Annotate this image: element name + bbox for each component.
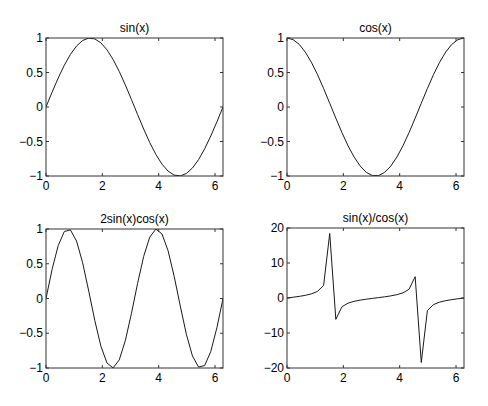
y-tick-label: 0.5	[267, 66, 284, 80]
x-tick-label: 2	[340, 179, 347, 193]
y-tick-label: 0	[36, 292, 43, 306]
x-tick-label: 0	[284, 371, 291, 385]
y-tick-label: −1	[29, 361, 43, 375]
subplot-title: sin(x)	[120, 21, 149, 35]
y-tick-label: 20	[271, 221, 285, 235]
x-tick-label: 6	[453, 179, 460, 193]
y-tick-label: −10	[264, 326, 285, 340]
x-tick-label: 0	[43, 179, 50, 193]
data-line	[46, 38, 223, 176]
subplot-title: sin(x)/cos(x)	[343, 211, 408, 225]
y-tick-label: −0.5	[19, 326, 43, 340]
x-tick-label: 6	[453, 371, 460, 385]
x-tick-label: 6	[212, 371, 219, 385]
x-tick-label: 2	[340, 371, 347, 385]
y-tick-label: −0.5	[260, 135, 284, 149]
data-line	[46, 229, 223, 368]
x-tick-label: 2	[99, 179, 106, 193]
x-tick-label: 4	[396, 179, 403, 193]
subplot-sin2: 0246−1−0.500.512sin(x)cos(x)	[19, 212, 223, 385]
y-tick-label: 0.5	[26, 257, 43, 271]
x-tick-label: 4	[155, 179, 162, 193]
y-tick-label: −20	[264, 361, 285, 375]
subplot-title: 2sin(x)cos(x)	[100, 212, 169, 226]
x-tick-label: 4	[396, 371, 403, 385]
subplot-cos: 0246−1−0.500.51cos(x)	[260, 21, 464, 193]
y-tick-label: 1	[36, 31, 43, 45]
x-tick-label: 4	[155, 371, 162, 385]
y-tick-label: −1	[270, 169, 284, 183]
y-tick-label: 10	[271, 256, 285, 270]
subplot-tan: 0246−20−1001020sin(x)/cos(x)	[264, 211, 464, 385]
data-line	[287, 233, 464, 362]
subplot-title: cos(x)	[359, 21, 392, 35]
x-tick-label: 0	[284, 179, 291, 193]
subplot-sin: 0246−1−0.500.51sin(x)	[19, 21, 223, 193]
y-tick-label: 0.5	[26, 66, 43, 80]
y-tick-label: 1	[277, 31, 284, 45]
y-tick-label: −1	[29, 169, 43, 183]
axes-frame	[287, 38, 464, 176]
x-tick-label: 6	[212, 179, 219, 193]
y-tick-label: 0	[277, 291, 284, 305]
y-tick-label: 0	[36, 100, 43, 114]
y-tick-label: 0	[277, 100, 284, 114]
figure-canvas: 0246−1−0.500.51sin(x)0246−1−0.500.51cos(…	[0, 0, 488, 406]
data-line	[287, 38, 464, 176]
x-tick-label: 0	[43, 371, 50, 385]
y-tick-label: 1	[36, 222, 43, 236]
x-tick-label: 2	[99, 371, 106, 385]
y-tick-label: −0.5	[19, 135, 43, 149]
